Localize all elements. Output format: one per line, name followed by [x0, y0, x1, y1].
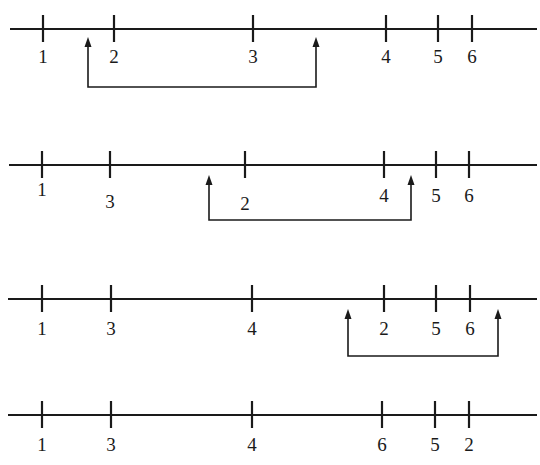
tick-label: 4: [247, 318, 257, 339]
tick-label: 4: [247, 434, 257, 455]
arrow-up-icon: [313, 37, 320, 47]
tick-label: 3: [248, 46, 258, 67]
number-line-2: 132456: [9, 151, 537, 220]
tick-label: 6: [464, 185, 474, 206]
swap-bracket-arrow: [345, 309, 502, 356]
tick-label: 3: [106, 434, 116, 455]
number-line-4: 134652: [8, 401, 537, 455]
tick-label: 3: [106, 318, 116, 339]
tick-label: 2: [379, 318, 389, 339]
tick-label: 1: [37, 318, 47, 339]
diagram-canvas: 123456132456134256134652: [0, 0, 540, 465]
bracket-line: [88, 45, 316, 87]
number-line-1: 123456: [10, 15, 537, 87]
arrow-up-icon: [206, 175, 213, 185]
tick-label: 4: [379, 185, 389, 206]
tick-label: 1: [37, 434, 47, 455]
tick-label: 6: [467, 46, 477, 67]
tick-label: 2: [240, 193, 250, 214]
arrow-up-icon: [345, 309, 352, 319]
bracket-line: [348, 317, 498, 356]
arrow-up-icon: [85, 37, 92, 47]
tick-label: 6: [377, 434, 387, 455]
tick-label: 1: [38, 46, 48, 67]
arrow-up-icon: [408, 175, 415, 185]
swap-bracket-arrow: [85, 37, 320, 87]
tick-label: 6: [465, 318, 475, 339]
tick-label: 2: [109, 46, 119, 67]
number-line-3: 134256: [8, 285, 537, 356]
tick-label: 5: [430, 434, 440, 455]
tick-label: 5: [431, 185, 441, 206]
tick-label: 4: [381, 46, 391, 67]
tick-label: 1: [37, 179, 47, 200]
tick-label: 5: [433, 46, 443, 67]
arrow-up-icon: [495, 309, 502, 319]
tick-label: 5: [431, 318, 441, 339]
tick-label: 2: [464, 434, 474, 455]
tick-label: 3: [105, 191, 115, 212]
